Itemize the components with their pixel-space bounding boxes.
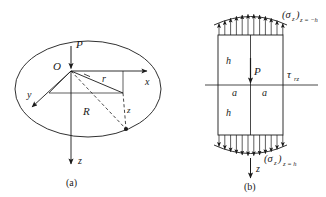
stress-bottom-arrows: [219, 135, 283, 156]
label-load-P: P: [75, 38, 83, 50]
label-origin-O: O: [53, 60, 61, 72]
label-stress-top-var: z: [291, 15, 295, 22]
projection-edge-diagonal: [49, 71, 71, 93]
figure-container: P O x y z r R z (a): [0, 0, 326, 197]
stress-top-arrows: [219, 14, 283, 35]
label-shear-stress: τ rz: [287, 68, 300, 82]
label-axis-z: z: [77, 155, 82, 166]
label-stress-bottom-var: z: [273, 159, 277, 166]
label-distance-R: R: [82, 105, 90, 117]
label-a-left: a: [232, 87, 237, 98]
label-a-right: a: [262, 87, 267, 98]
technical-diagram: P O x y z r R z (a): [0, 0, 326, 197]
label-block-load-P: P: [253, 65, 261, 77]
radial-line-r: [71, 71, 123, 93]
label-axis-x: x: [144, 76, 150, 87]
label-axis-y: y: [26, 89, 32, 100]
depth-line-z: [123, 93, 126, 129]
label-stress-top: (σ z ) z = −h: [282, 9, 318, 23]
label-stress-top-open: (σ: [282, 9, 291, 21]
label-tau-symbol: τ: [287, 68, 292, 80]
label-depth-z: z: [126, 105, 131, 115]
angle-tick: [84, 74, 90, 77]
caption-panel-a: (a): [66, 177, 77, 189]
interior-point-marker: [124, 127, 128, 131]
label-stress-bottom-close: ): [277, 153, 282, 165]
label-h-upper: h: [226, 55, 231, 66]
label-stress-bottom: (σ z ) z = h: [264, 153, 296, 167]
label-block-axis-z: z: [255, 163, 260, 174]
label-stress-top-subscript: z = −h: [299, 16, 318, 23]
panel-b: h h a a P z τ rz (σ z ) z = −h (σ z ) z …: [205, 9, 318, 193]
distance-line-R: [71, 71, 126, 129]
label-stress-bottom-subscript: z = h: [282, 160, 296, 167]
label-stress-bottom-open: (σ: [264, 153, 273, 165]
label-radial-r: r: [102, 73, 106, 84]
label-h-lower: h: [226, 107, 231, 118]
label-tau-subscript: rz: [294, 75, 300, 82]
panel-a: P O x y z r R z (a): [15, 38, 161, 189]
caption-panel-b: (b): [244, 181, 256, 193]
